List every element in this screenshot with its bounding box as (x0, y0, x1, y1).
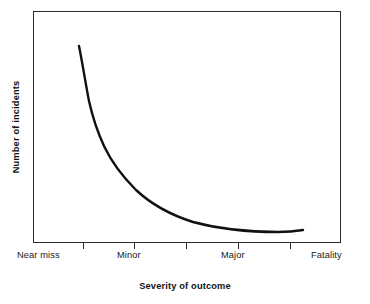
y-axis-title: Number of incidents (11, 81, 21, 174)
x-tick-label-minor: Minor (117, 250, 141, 261)
x-axis-tick-2 (134, 243, 135, 249)
x-axis-tick-5 (290, 243, 291, 249)
x-axis-tick-3 (186, 243, 187, 249)
x-axis-tick-1 (83, 243, 84, 249)
x-axis-title: Severity of outcome (0, 281, 370, 291)
plot-area-frame (33, 11, 341, 243)
x-tick-label-near-miss: Near miss (17, 250, 60, 261)
incident-severity-chart: Near miss Minor Major Fatality Severity … (0, 0, 370, 304)
x-axis-tick-4 (238, 243, 239, 249)
x-tick-label-major: Major (221, 250, 245, 261)
x-tick-label-fatality: Fatality (311, 250, 342, 261)
